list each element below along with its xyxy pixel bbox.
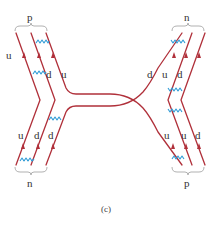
quark-line-upper-exchange — [46, 33, 182, 165]
feynman-diagram: p n n p u d u d u d u d d u u — [0, 0, 217, 228]
gluon-icon — [168, 109, 182, 112]
quark-line-left-outer — [16, 33, 40, 165]
label-quark: d — [147, 68, 153, 80]
label-quark: u — [164, 129, 170, 141]
brace-top-right — [172, 23, 204, 31]
quark-line-left-middle — [31, 33, 55, 165]
label-quark: u — [162, 68, 168, 80]
label-quark: d — [195, 129, 201, 141]
label-quark: u — [181, 129, 187, 141]
gluon-icon — [33, 71, 46, 74]
label-quark: u — [61, 68, 67, 80]
label-quark: u — [6, 49, 12, 61]
quark-line-right-middle — [168, 33, 192, 165]
label-quark: u — [18, 129, 24, 141]
arrow-icon — [172, 52, 176, 58]
label-hadron-bottom-left: n — [27, 177, 33, 189]
quark-line-lower-exchange — [46, 33, 182, 165]
label-quark: d — [48, 129, 54, 141]
label-quark: d — [177, 68, 183, 80]
gluon-icon — [168, 88, 182, 91]
label-quark: d — [46, 68, 52, 80]
label-hadron-bottom-right: p — [184, 177, 190, 189]
gluon-icon — [49, 117, 61, 120]
label-hadron-top-right: n — [184, 11, 190, 23]
gluon-icon — [171, 40, 185, 43]
brace-bottom-left — [15, 167, 47, 175]
label-hadron-top-left: p — [27, 11, 33, 23]
arrow-icon — [171, 143, 175, 149]
brace-bottom-right — [172, 167, 204, 175]
gluon-icon — [20, 158, 34, 161]
gluon-icon — [36, 40, 49, 43]
figure-caption: (c) — [101, 204, 111, 214]
brace-top-left — [15, 23, 47, 31]
label-quark: d — [34, 129, 40, 141]
